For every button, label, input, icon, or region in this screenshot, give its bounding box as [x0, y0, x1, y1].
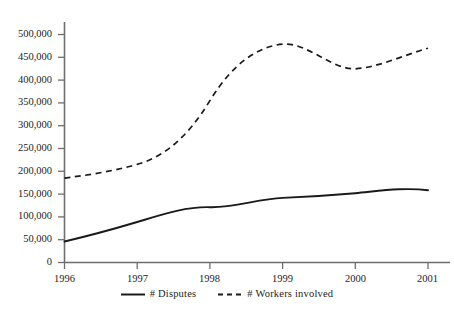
- x-tick-label: 1996: [40, 274, 89, 285]
- legend-dashed-line-icon: [218, 290, 242, 299]
- x-tick-label: 1997: [113, 274, 162, 285]
- legend-label-disputes: # Disputes: [150, 288, 197, 300]
- y-tick-label: 450,000: [0, 52, 52, 63]
- x-tick-label: 1999: [258, 274, 307, 285]
- y-tick-label: 400,000: [0, 75, 52, 86]
- chart-plot-area: [0, 0, 454, 318]
- y-tick-label: 250,000: [0, 143, 52, 154]
- x-tick-label: 2000: [331, 274, 380, 285]
- line-chart: 500,000 450,000 400,000 350,000 300,000 …: [0, 0, 454, 318]
- legend-item-workers-involved: # Workers involved: [218, 288, 333, 300]
- y-tick-label: 200,000: [0, 166, 52, 177]
- x-axis-ticks: [65, 263, 429, 270]
- y-tick-label: 300,000: [0, 120, 52, 131]
- y-tick-label: 350,000: [0, 97, 52, 108]
- y-tick-label: 500,000: [0, 29, 52, 40]
- x-tick-label: 1998: [185, 274, 234, 285]
- series-line-disputes: [65, 189, 429, 241]
- legend-item-disputes: # Disputes: [121, 288, 197, 300]
- legend-solid-line-icon: [121, 290, 145, 299]
- y-tick-label: 50,000: [0, 234, 52, 245]
- x-tick-label: 2001: [403, 274, 452, 285]
- series-line-workers-involved: [65, 44, 429, 178]
- legend-label-workers-involved: # Workers involved: [247, 288, 333, 300]
- y-tick-label: 150,000: [0, 189, 52, 200]
- y-tick-label: 0: [0, 257, 52, 268]
- y-tick-label: 100,000: [0, 211, 52, 222]
- chart-legend: # Disputes # Workers involved: [0, 288, 454, 300]
